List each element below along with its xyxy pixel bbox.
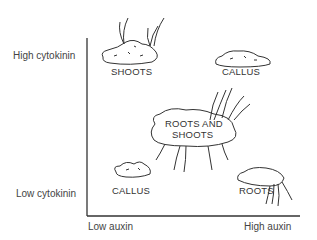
callus-tissue-icon xyxy=(216,51,271,67)
x-axis-low-label: Low auxin xyxy=(88,221,133,232)
roots-and-shoots-label-line2: SHOOTS xyxy=(172,129,213,140)
roots-label: ROOTS xyxy=(239,185,274,196)
shoots-tissue-icon xyxy=(102,18,164,64)
shoots-label: SHOOTS xyxy=(111,66,152,77)
callus-high-label: CALLUS xyxy=(222,66,260,77)
x-axis-high-label: High auxin xyxy=(244,221,291,232)
callus-tissue-icon-low xyxy=(115,162,151,177)
callus-low-label: CALLUS xyxy=(112,185,150,196)
diagram-canvas xyxy=(0,0,317,240)
y-axis-low-label: Low cytokinin xyxy=(16,188,76,199)
roots-and-shoots-label-line1: ROOTS AND xyxy=(165,118,223,129)
y-axis-high-label: High cytokinin xyxy=(13,50,75,61)
